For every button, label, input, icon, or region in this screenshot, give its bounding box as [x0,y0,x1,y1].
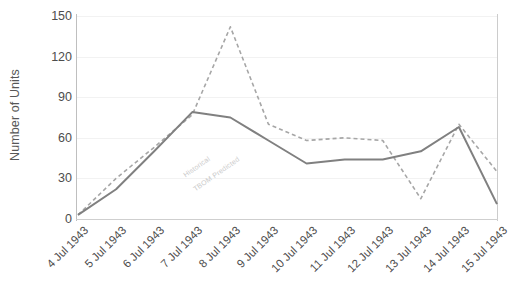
x-axis-tick-labels: 4 Jul 19435 Jul 19436 Jul 19437 Jul 1943… [76,224,514,288]
y-axis-title: Number of Units [0,0,30,230]
series-line-historical [78,112,497,215]
series-container [76,14,498,221]
chart-screenshot: Number of Units 0306090120150 Historical… [0,0,514,288]
series-line-tbom-predicted [78,27,497,215]
y-tick-label: 30 [32,172,72,185]
y-tick-label: 90 [32,91,72,104]
y-tick-label: 150 [32,10,72,23]
plot-area: Historical TBOM Predicted [76,14,498,221]
y-tick-label: 120 [32,50,72,63]
y-tick-label: 0 [32,213,72,226]
y-axis-title-text: Number of Units [8,69,22,161]
y-tick-label: 60 [32,132,72,145]
